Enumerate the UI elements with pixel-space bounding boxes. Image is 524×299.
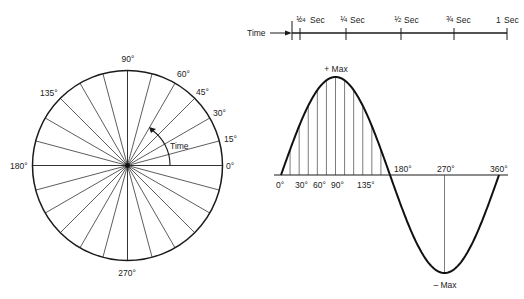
angle-label-0: 0° [226,161,234,171]
spoke-45 [128,98,195,165]
sine-label-60: 60° [313,180,326,190]
sine-hatch-lines [290,77,381,175]
svg-text:Sec: Sec [350,15,365,25]
rotation-label: Time [170,141,189,151]
time-arrow-head-icon [285,31,292,36]
rotation-arc-arrow [152,130,170,165]
spoke-255 [103,166,128,258]
svg-text:4: 4 [344,17,348,23]
spoke-210 [45,166,127,214]
spoke-345 [128,166,220,191]
tick-label-1-24: 1 24 Sec [296,15,325,25]
spoke-315 [128,166,195,233]
spoke-120 [80,83,128,165]
svg-text:4: 4 [450,17,454,23]
spoke-240 [80,166,128,248]
time-axis: Time 1 24 Sec 1 4 Sec 1 2 Sec 3 [247,15,519,40]
svg-text:Sec: Sec [404,15,419,25]
sine-label-180: 180° [394,164,412,174]
sine-label-135: 135° [357,180,375,190]
spoke-105 [103,74,128,166]
spoke-30 [128,118,210,166]
spoke-150 [45,118,127,166]
spoke-195 [36,166,128,191]
spoke-165 [36,141,128,166]
sine-label-30: 30° [295,180,308,190]
svg-text:Sec: Sec [504,15,519,25]
angle-label-45: 45° [196,87,209,97]
spoke-300 [128,166,176,248]
spoke-135 [60,98,127,165]
angle-label-270: 270° [118,268,136,278]
svg-text:Sec: Sec [456,15,471,25]
rotating-vector-circle: Time 90° 60° 45° 30° 15° 0° 135° 180° 27… [10,54,237,278]
diagram-canvas: Time 90° 60° 45° 30° 15° 0° 135° 180° 27… [0,0,524,299]
svg-text:1: 1 [496,15,501,25]
angle-label-180: 180° [10,161,28,171]
angle-label-90: 90° [122,54,135,64]
angle-label-60: 60° [177,69,190,79]
sine-label-360: 360° [490,164,508,174]
svg-text:2: 2 [398,17,402,23]
pos-max-label: + Max [324,64,348,74]
sine-label-0: 0° [276,180,284,190]
neg-max-label: – Max [433,280,457,290]
spoke-225 [60,166,127,233]
angle-label-15: 15° [224,134,237,144]
sine-wave-plot: + Max – Max 0° 30° 60° 90° 135° 180° 270… [274,64,508,290]
time-axis-label: Time [247,28,266,38]
spoke-330 [128,166,210,214]
tick-label-1-2: 1 2 Sec [394,15,419,25]
sine-label-90: 90° [331,180,344,190]
sine-label-270: 270° [437,164,455,174]
center-dot [125,163,130,168]
tick-label-1: 1 Sec [496,15,519,25]
svg-text:Sec: Sec [310,15,325,25]
angle-label-30: 30° [213,108,226,118]
angle-label-135: 135° [40,88,58,98]
spoke-285 [128,166,153,258]
tick-label-1-4: 1 4 Sec [340,15,365,25]
tick-label-3-4: 3 4 Sec [446,15,471,25]
spoke-75 [128,74,153,166]
